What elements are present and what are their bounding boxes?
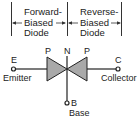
collector-terminal <box>116 67 120 71</box>
base-letter: B <box>71 98 77 108</box>
svg-text:Diode: Diode <box>24 27 49 38</box>
pnp-diode-model-diagram: Forward- Biased Diode Reverse- Biased Di… <box>0 0 139 117</box>
forward-biased-label: Forward- Biased Diode <box>24 6 62 38</box>
emitter-letter: E <box>11 55 17 65</box>
svg-text:Diode: Diode <box>80 27 105 38</box>
base-terminal <box>65 101 69 105</box>
base-label: Base <box>69 108 90 117</box>
svg-text:Reverse-: Reverse- <box>80 6 119 17</box>
collector-label: Collector <box>101 73 137 83</box>
forward-diode-triangle <box>47 57 67 81</box>
layer-p-right: P <box>84 46 90 56</box>
reverse-diode-triangle <box>67 57 87 81</box>
reverse-biased-label: Reverse- Biased Diode <box>80 6 119 38</box>
layer-p-left: P <box>45 46 51 56</box>
svg-text:Forward-: Forward- <box>24 6 62 17</box>
layer-n-middle: N <box>64 46 71 56</box>
emitter-label: Emitter <box>3 73 32 83</box>
collector-letter: C <box>115 55 122 65</box>
emitter-terminal <box>12 67 16 71</box>
